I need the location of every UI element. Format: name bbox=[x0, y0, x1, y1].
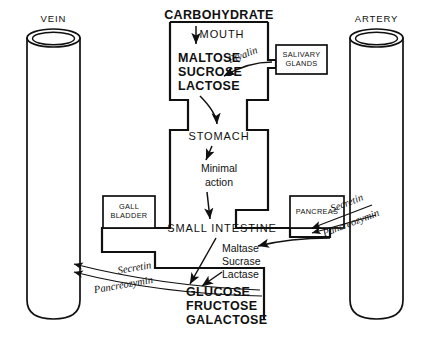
small-intestine-label: SMALL INTESTINE bbox=[167, 222, 277, 234]
pancreozymin-vein-label: Pancreozymin bbox=[92, 274, 154, 295]
gall-bladder-line-2: BLADDER bbox=[110, 211, 147, 220]
lactose-label: LACTOSE bbox=[178, 79, 240, 93]
arrow-enzymes-to-intestine bbox=[258, 238, 330, 246]
gall-bladder-node: GALL BLADDER bbox=[103, 196, 155, 228]
vein-body bbox=[27, 38, 80, 319]
mouth-label: MOUTH bbox=[200, 28, 245, 40]
stomach-action-line-1: Minimal bbox=[201, 162, 237, 174]
salivary-glands-line-1: SALIVARY bbox=[283, 50, 321, 59]
carbohydrate-label: CARBOHYDRATE bbox=[164, 8, 274, 22]
digestion-diagram-canvas: VEIN ARTERY SALIVARY GLANDS GALL BLADDER… bbox=[0, 0, 426, 339]
stomach-label: STOMACH bbox=[188, 130, 249, 142]
salivary-glands-line-2: GLANDS bbox=[285, 59, 317, 68]
lactase-label: Lactase bbox=[222, 268, 259, 280]
sucrase-label: Sucrase bbox=[222, 255, 261, 267]
arrow-stomach-to-action bbox=[206, 146, 212, 160]
diagram-svg: VEIN ARTERY SALIVARY GLANDS GALL BLADDER… bbox=[0, 0, 426, 339]
stomach-action-line-2: action bbox=[205, 176, 233, 188]
vein-label: VEIN bbox=[41, 13, 67, 24]
salivary-glands-node: SALIVARY GLANDS bbox=[276, 45, 327, 74]
arrow-mouth-to-stomach bbox=[200, 96, 217, 124]
fructose-label: FRUCTOSE bbox=[186, 299, 257, 313]
arrow-intestine-to-monosaccharides-1 bbox=[190, 238, 216, 284]
ptyalin-label: Ptyalin bbox=[226, 44, 259, 65]
maltase-label: Maltase bbox=[222, 242, 259, 254]
arrow-intestine-to-monosaccharides-2 bbox=[202, 272, 222, 286]
artery-body bbox=[350, 38, 403, 319]
secretin-vein-label: Secretin bbox=[117, 259, 152, 276]
vein-vessel bbox=[27, 29, 80, 319]
arrow-stomach-to-intestine bbox=[207, 192, 210, 219]
artery-label: ARTERY bbox=[355, 13, 399, 24]
gall-bladder-line-1: GALL bbox=[119, 202, 139, 211]
artery-vessel bbox=[350, 29, 403, 319]
galactose-label: GALACTOSE bbox=[186, 313, 267, 327]
